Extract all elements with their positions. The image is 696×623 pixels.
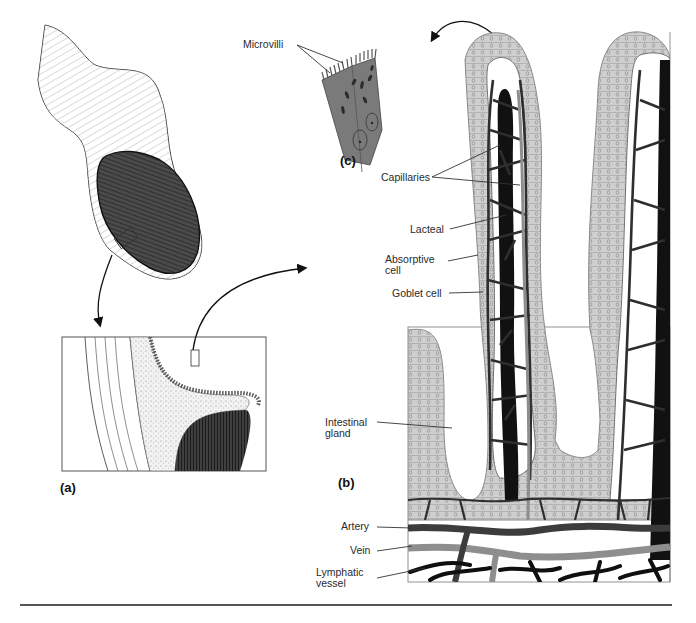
label-lymphatic-vessel: Lymphatic vessel: [316, 567, 363, 589]
panel-tag-c: (c): [340, 153, 356, 168]
vein-vessel: [408, 547, 670, 557]
label-intestinal-gland: Intestinal gland: [325, 417, 367, 439]
label-goblet-cell: Goblet cell: [392, 288, 442, 299]
artery-vessel: [408, 526, 670, 532]
label-artery: Artery: [341, 521, 369, 532]
label-microvilli: Microvilli: [243, 39, 283, 50]
label-lacteal: Lacteal: [410, 224, 444, 235]
label-absorptive-cell: Absorptive cell: [385, 254, 435, 276]
panel-a-cross-section: [62, 337, 266, 471]
panel-b-villi-section: [408, 32, 670, 582]
intestine-tube-illustration: [38, 25, 202, 279]
lymphatic-vessels: [410, 560, 668, 582]
bottom-rule: [20, 604, 672, 606]
panel-tag-b: (b): [338, 475, 355, 490]
label-vein: Vein: [350, 545, 370, 556]
arrow-to-panel-a: [98, 255, 112, 325]
label-capillaries: Capillaries: [381, 172, 430, 183]
panel-tag-a: (a): [60, 480, 76, 495]
